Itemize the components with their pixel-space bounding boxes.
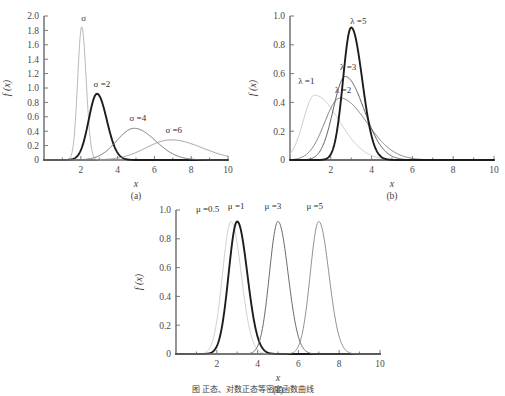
x-tick-label: 6 bbox=[152, 165, 157, 175]
y-tick-label: 0.4 bbox=[27, 127, 39, 137]
y-tick-label: 0.8 bbox=[273, 40, 285, 50]
curve-label: λ =1 bbox=[298, 76, 314, 86]
y-tick-label: 1.0 bbox=[159, 205, 171, 215]
curve-label: σ =4 bbox=[129, 113, 146, 123]
density-curve bbox=[176, 222, 380, 354]
density-curve bbox=[176, 222, 380, 354]
density-curve bbox=[290, 28, 494, 160]
x-axis-label: x bbox=[133, 178, 139, 189]
x-tick-label: 8 bbox=[337, 359, 342, 369]
curve-label: σ =2 bbox=[94, 79, 111, 89]
density-curve bbox=[290, 76, 494, 160]
y-tick-label: 0.2 bbox=[159, 321, 171, 331]
plot-area-c: 00.20.40.60.81.0246810xf (x)(c)μ =0.5μ =… bbox=[128, 196, 386, 388]
x-tick-label: 10 bbox=[223, 165, 233, 175]
x-tick-label: 2 bbox=[78, 165, 83, 175]
y-tick-label: 1.8 bbox=[27, 26, 39, 36]
curve-label: μ =3 bbox=[265, 201, 282, 211]
x-tick-label: 6 bbox=[296, 359, 301, 369]
curve-label: σ bbox=[81, 13, 86, 23]
x-tick-label: 2 bbox=[328, 165, 333, 175]
x-axis-label: x bbox=[389, 178, 395, 189]
density-curve bbox=[44, 94, 228, 160]
y-tick-label: 0 bbox=[166, 349, 171, 359]
figure-caption: 图 正态、对数正态等密度函数曲线 bbox=[192, 385, 314, 394]
y-tick-label: 0.6 bbox=[159, 263, 171, 273]
x-tick-label: 10 bbox=[375, 359, 385, 369]
y-tick-label: 0.8 bbox=[27, 98, 39, 108]
chart-panel-b: 00.20.40.60.81.0246810xf (x)(b)λ =1λ =2λ… bbox=[242, 2, 500, 194]
y-axis-label: f (x) bbox=[133, 273, 145, 290]
x-tick-label: 8 bbox=[451, 165, 456, 175]
y-tick-label: 2.0 bbox=[27, 11, 39, 21]
x-tick-label: 4 bbox=[369, 165, 374, 175]
plot-area-a: 00.20.40.60.81.01.21.41.61.82.0246810xf … bbox=[0, 2, 232, 194]
curve-label: μ =0.5 bbox=[196, 204, 220, 214]
chart-panel-a: 00.20.40.60.81.01.21.41.61.82.0246810xf … bbox=[0, 2, 232, 194]
y-axis-label: f (x) bbox=[247, 79, 259, 96]
y-tick-label: 0.6 bbox=[273, 69, 285, 79]
chart-panel-c: 00.20.40.60.81.0246810xf (x)(c)μ =0.5μ =… bbox=[128, 196, 386, 388]
curve-label: λ =3 bbox=[340, 62, 357, 72]
y-tick-label: 1.6 bbox=[27, 40, 39, 50]
y-axis-label: f (x) bbox=[1, 79, 13, 96]
x-tick-label: 4 bbox=[255, 359, 260, 369]
y-tick-label: 1.2 bbox=[27, 69, 39, 79]
y-tick-label: 0.4 bbox=[273, 98, 285, 108]
curve-label: λ =5 bbox=[350, 16, 367, 26]
y-tick-label: 0.2 bbox=[27, 141, 39, 151]
curve-label: σ =6 bbox=[165, 125, 182, 135]
y-tick-label: 0.2 bbox=[273, 127, 285, 137]
density-curve bbox=[44, 140, 228, 160]
curve-label: μ =5 bbox=[306, 201, 323, 211]
y-tick-label: 1.4 bbox=[27, 55, 39, 65]
density-curve bbox=[44, 27, 228, 160]
density-curve bbox=[176, 222, 380, 354]
y-tick-label: 1.0 bbox=[27, 83, 39, 93]
y-tick-label: 0 bbox=[34, 155, 39, 165]
x-tick-label: 4 bbox=[115, 165, 120, 175]
y-tick-label: 0 bbox=[280, 155, 285, 165]
panel-caption: (b) bbox=[386, 191, 397, 202]
x-tick-label: 10 bbox=[489, 165, 499, 175]
y-tick-label: 0.8 bbox=[159, 234, 171, 244]
x-tick-label: 6 bbox=[410, 165, 415, 175]
figure-caption-wrap: 图 正态、对数正态等密度函数曲线 bbox=[0, 378, 505, 396]
x-tick-label: 8 bbox=[189, 165, 194, 175]
y-tick-label: 1.0 bbox=[273, 11, 285, 21]
y-tick-label: 0.6 bbox=[27, 112, 39, 122]
plot-area-b: 00.20.40.60.81.0246810xf (x)(b)λ =1λ =2λ… bbox=[242, 2, 500, 194]
y-tick-label: 0.4 bbox=[159, 292, 171, 302]
density-curve bbox=[176, 222, 380, 354]
curve-label: μ =1 bbox=[228, 201, 245, 211]
x-tick-label: 2 bbox=[214, 359, 219, 369]
